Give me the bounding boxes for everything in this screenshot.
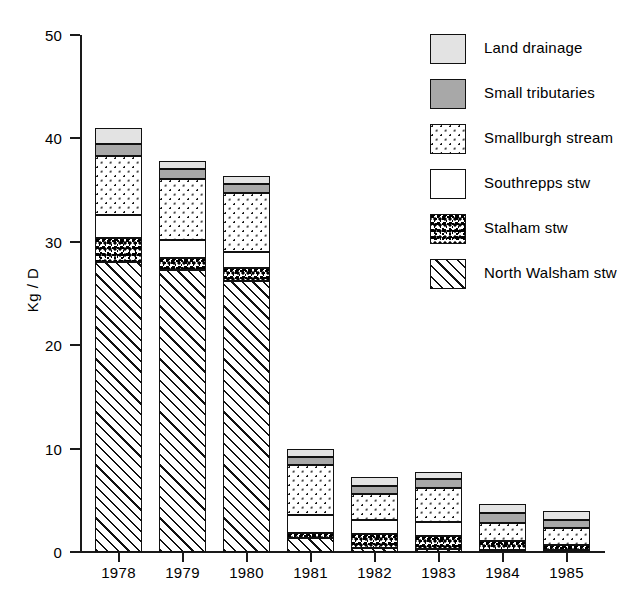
bar-segment bbox=[223, 193, 270, 252]
legend-label: North Walsham stw bbox=[484, 264, 617, 281]
bar-segment bbox=[415, 479, 462, 488]
bar-segment bbox=[415, 536, 462, 548]
y-tick-mark bbox=[70, 34, 80, 36]
y-tick-mark bbox=[70, 551, 80, 553]
bar-segment bbox=[223, 184, 270, 193]
bar-segment bbox=[95, 144, 142, 156]
bar-segment bbox=[287, 533, 334, 537]
bar-1982 bbox=[351, 0, 398, 596]
y-tick-mark bbox=[70, 448, 80, 450]
y-tick-mark bbox=[70, 344, 80, 346]
bar-segment bbox=[543, 528, 590, 545]
bar-segment bbox=[287, 538, 334, 552]
y-tick-label: 20 bbox=[45, 337, 62, 354]
bar-segment bbox=[223, 176, 270, 184]
bar-1980 bbox=[223, 0, 270, 596]
bar-segment bbox=[543, 550, 590, 552]
bar-segment bbox=[415, 549, 462, 552]
legend-swatch-icon bbox=[430, 124, 466, 154]
bar-segment bbox=[415, 472, 462, 478]
legend-swatch-icon bbox=[430, 259, 466, 289]
y-tick-label: 50 bbox=[45, 27, 62, 44]
bar-1978 bbox=[95, 0, 142, 596]
y-axis-title: Kg / D bbox=[24, 268, 41, 313]
bar-segment bbox=[223, 281, 270, 552]
bar-segment bbox=[351, 548, 398, 552]
legend-swatch-icon bbox=[430, 169, 466, 199]
bar-segment bbox=[543, 545, 590, 550]
bar-segment bbox=[95, 128, 142, 144]
bar-segment bbox=[351, 486, 398, 494]
y-tick-mark bbox=[70, 241, 80, 243]
bar-segment bbox=[479, 523, 526, 541]
y-tick-label: 40 bbox=[45, 130, 62, 147]
bar-1981 bbox=[287, 0, 334, 596]
bar-segment bbox=[95, 215, 142, 238]
bar-segment bbox=[543, 511, 590, 520]
legend-swatch-icon bbox=[430, 79, 466, 109]
bar-segment bbox=[159, 179, 206, 240]
bar-segment bbox=[479, 513, 526, 523]
y-tick-label: 10 bbox=[45, 440, 62, 457]
bar-segment bbox=[95, 262, 142, 552]
bar-segment bbox=[479, 541, 526, 550]
bar-segment bbox=[95, 238, 142, 263]
legend-label: Southrepps stw bbox=[484, 174, 590, 191]
bar-segment bbox=[159, 169, 206, 178]
bar-segment bbox=[287, 457, 334, 465]
legend-swatch-icon bbox=[430, 214, 466, 244]
y-tick-label: 30 bbox=[45, 233, 62, 250]
legend-label: Land drainage bbox=[484, 39, 583, 56]
bar-segment bbox=[543, 520, 590, 528]
bar-segment bbox=[159, 258, 206, 269]
bar-segment bbox=[415, 522, 462, 536]
bar-segment bbox=[287, 449, 334, 457]
y-axis-line bbox=[80, 35, 82, 552]
y-tick-label: 0 bbox=[53, 544, 62, 561]
bar-segment bbox=[351, 520, 398, 534]
bar-segment bbox=[351, 534, 398, 547]
bar-segment bbox=[479, 550, 526, 552]
bar-segment bbox=[287, 465, 334, 515]
legend-label: Smallburgh stream bbox=[484, 129, 613, 146]
bar-segment bbox=[479, 504, 526, 512]
bar-segment bbox=[287, 515, 334, 534]
bar-segment bbox=[159, 240, 206, 259]
bar-segment bbox=[223, 268, 270, 281]
bar-segment bbox=[415, 488, 462, 522]
y-tick-mark bbox=[70, 137, 80, 139]
bar-1979 bbox=[159, 0, 206, 596]
legend-swatch-icon bbox=[430, 34, 466, 64]
legend-label: Small tributaries bbox=[484, 84, 595, 101]
legend-label: Stalham stw bbox=[484, 219, 568, 236]
bar-segment bbox=[159, 161, 206, 169]
bar-segment bbox=[351, 494, 398, 520]
bar-segment bbox=[95, 156, 142, 215]
stacked-bar-chart: Kg / D 01020304050 197819791980198119821… bbox=[0, 0, 623, 596]
bar-segment bbox=[223, 252, 270, 268]
bar-segment bbox=[159, 270, 206, 552]
bar-segment bbox=[351, 477, 398, 486]
